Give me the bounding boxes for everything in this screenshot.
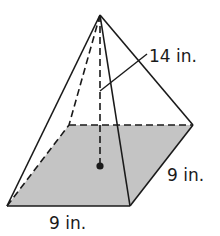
base-side-right-label: 9 in. <box>167 165 204 185</box>
height-label: 14 in. <box>149 46 197 66</box>
pyramid-diagram: 14 in. 9 in. 9 in. <box>0 0 220 236</box>
base-side-front-label: 9 in. <box>49 213 86 233</box>
base-center-point <box>96 162 103 169</box>
